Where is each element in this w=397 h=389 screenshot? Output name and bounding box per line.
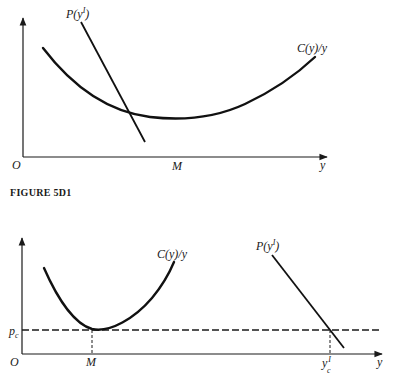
bottom-curve-label: C(y)/y (157, 247, 188, 261)
bottom-m-label: M (85, 355, 97, 369)
pc-label: pc (8, 324, 19, 340)
bottom-average-cost-curve (44, 262, 174, 330)
top-demand-line (81, 22, 145, 142)
bottom-origin-label: O (10, 355, 19, 369)
top-curve-label: C(y)/y (297, 41, 328, 55)
top-origin-label: O (12, 158, 21, 172)
yc-label: yIc (321, 355, 331, 375)
top-y-axis-label: y (319, 158, 326, 172)
bottom-demand-line (272, 255, 344, 348)
bottom-diagram: pc O M yIc y C(y)/y P(yI) (8, 238, 383, 375)
figure-caption: FIGURE 5D1 (10, 187, 72, 198)
bottom-line-label: P(yI) (255, 238, 279, 253)
top-line-label: P(yI) (65, 6, 89, 21)
bottom-y-axis-label: y (376, 355, 383, 369)
figure-canvas: O M y C(y)/y P(yI) FIGURE 5D1 pc O M yIc… (0, 0, 397, 389)
top-average-cost-curve (43, 48, 315, 119)
top-diagram: O M y C(y)/y P(yI) (12, 6, 328, 173)
top-m-label: M (171, 159, 183, 173)
